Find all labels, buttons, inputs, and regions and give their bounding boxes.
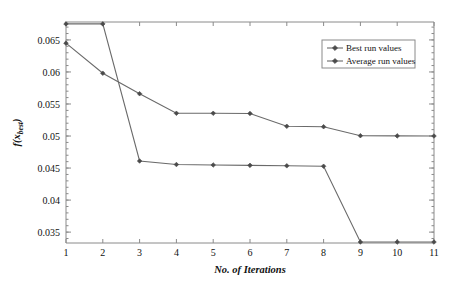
legend-label-2: Average run values (346, 56, 416, 66)
data-point (358, 133, 363, 138)
x-tick-label-7: 8 (321, 247, 326, 258)
y-tick-label-3: 0.05 (43, 131, 61, 142)
data-point (285, 164, 290, 169)
y-tick-label-1: 0.04 (43, 195, 61, 206)
data-point (211, 163, 216, 168)
data-point (211, 111, 216, 116)
data-point (432, 134, 437, 139)
x-tick-label-9: 10 (392, 247, 402, 258)
x-tick-label-0: 1 (64, 247, 69, 258)
y-tick-label-0: 0.035 (38, 227, 61, 238)
y-axis-title: f(xbest) (11, 119, 25, 147)
x-tick-label-10: 11 (429, 247, 439, 258)
data-point (358, 240, 363, 245)
y-axis-title-func: f(x (11, 134, 23, 146)
x-axis-tick-labels: 1234567891011 (64, 247, 439, 258)
x-tick-label-6: 7 (284, 247, 289, 258)
y-axis-title-subscript: best (16, 121, 25, 134)
chart-page: 0.0350.040.0450.050.0550.060.065 1234567… (0, 0, 450, 283)
x-tick-label-8: 9 (358, 247, 363, 258)
data-point (137, 159, 142, 164)
y-tick-label-5: 0.06 (43, 67, 61, 78)
data-point (395, 134, 400, 139)
x-tick-label-4: 5 (211, 247, 216, 258)
y-axis-title-close: ) (11, 119, 23, 124)
data-point (285, 124, 290, 129)
data-point (174, 162, 179, 167)
data-point (432, 240, 437, 245)
data-point (248, 163, 253, 168)
x-tick-label-5: 6 (248, 247, 253, 258)
data-point (248, 111, 253, 116)
x-tick-label-3: 4 (174, 247, 179, 258)
y-tick-label-4: 0.055 (38, 99, 61, 110)
y-tick-label-2: 0.045 (38, 163, 61, 174)
data-point (174, 111, 179, 116)
x-axis-title: No. of Iterations (213, 264, 285, 275)
y-axis-tick-labels: 0.0350.040.0450.050.0550.060.065 (38, 35, 61, 238)
chart-legend[interactable]: Best run valuesAverage run values (322, 40, 416, 68)
plot-area: 0.0350.040.0450.050.0550.060.065 1234567… (11, 22, 439, 275)
data-point (321, 124, 326, 129)
legend-label-1: Best run values (346, 43, 402, 53)
x-tick-label-1: 2 (100, 247, 105, 258)
line-chart: 0.0350.040.0450.050.0550.060.065 1234567… (0, 0, 450, 283)
data-point (137, 91, 142, 96)
data-point (395, 240, 400, 245)
data-point (321, 164, 326, 169)
x-tick-label-2: 3 (137, 247, 142, 258)
y-tick-label-6: 0.065 (38, 35, 61, 46)
